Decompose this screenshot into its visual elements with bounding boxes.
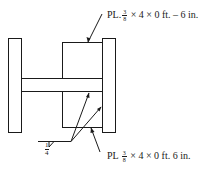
top-plate-label: PL.38 × 4 × 0 ft. – 6 in. [107, 9, 198, 22]
fillet-weld-icon [49, 142, 54, 148]
top-leader-line [88, 14, 102, 42]
weld-leader-1 [71, 93, 89, 142]
right-flange [103, 39, 116, 133]
top-plate [63, 43, 103, 79]
top-plate-thickness-fraction: 38 [122, 9, 127, 22]
section-drawing [0, 0, 209, 173]
top-plate-dimensions: × 4 × 0 ft. – 6 in. [131, 9, 199, 20]
bottom-arrowhead [91, 128, 95, 134]
bottom-plate-dimensions: × 4 × 0 ft. 6 in. [130, 150, 190, 161]
top-plate-prefix: PL [107, 9, 119, 20]
left-flange [9, 39, 22, 133]
weld-arrowhead-1 [86, 93, 90, 99]
bottom-plate-label: PL 38 × 4 × 0 ft. 6 in. [107, 150, 190, 163]
bottom-plate-prefix: PL [107, 150, 118, 161]
weld-leader-2 [71, 107, 101, 142]
weld-size-fraction: 1 4 [45, 142, 49, 157]
bottom-plate-thickness-fraction: 38 [122, 150, 127, 163]
